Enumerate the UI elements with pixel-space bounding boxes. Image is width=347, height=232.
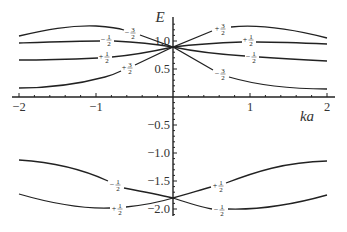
label-lower-left-minus-1-2: − 1 2 [110, 178, 121, 193]
y-tick-label: −0.5 [147, 118, 170, 132]
y-tick-label: −1.0 [147, 146, 170, 160]
svg-text:−: − [110, 180, 115, 189]
label-upper-right-minus-1-2: − 1 2 [246, 50, 257, 65]
svg-text:−: − [214, 205, 219, 214]
label-upper-right-plus-3-2: + 3 2 [215, 22, 226, 37]
y-axis: 1.0 0.5 −0.5 −1.0 −1.5 −2.0 E [147, 9, 177, 216]
label-upper-left-minus-3-2: − 3 2 [125, 26, 136, 41]
x-tick-label: 2 [324, 100, 330, 114]
curve-labels: − 3 2 − 1 2 + 1 2 + 3 2 + 3 2 [99, 22, 257, 218]
svg-text:+: + [122, 63, 127, 72]
y-tick-label: −1.5 [147, 174, 170, 188]
x-tick-label: −2 [12, 100, 25, 114]
y-tick-label: 0.5 [154, 62, 170, 76]
x-tick-label: 1 [247, 100, 253, 114]
svg-text:2: 2 [118, 209, 122, 217]
label-lower-right-minus-1-2: − 1 2 [214, 203, 225, 218]
svg-text:2: 2 [105, 57, 109, 65]
svg-text:2: 2 [220, 210, 224, 218]
svg-text:2: 2 [128, 68, 132, 76]
y-axis-title: E [154, 9, 164, 25]
svg-text:+: + [112, 204, 117, 213]
y-tick-label: −2.0 [147, 202, 170, 216]
label-upper-right-minus-3-2: − 3 2 [215, 67, 226, 82]
svg-text:+: + [243, 35, 248, 44]
svg-text:2: 2 [219, 186, 223, 194]
svg-text:+: + [213, 181, 218, 190]
svg-text:+: + [99, 52, 104, 61]
svg-text:2: 2 [249, 40, 253, 48]
svg-text:−: − [246, 52, 251, 61]
svg-text:2: 2 [131, 33, 135, 41]
svg-text:2: 2 [107, 40, 111, 48]
svg-text:−: − [125, 28, 130, 37]
x-tick-label: −1 [89, 100, 102, 114]
band-structure-chart: −2 −1 1 2 ka [0, 0, 347, 232]
label-lower-right-plus-1-2: + 1 2 [213, 179, 224, 194]
svg-text:−: − [101, 35, 106, 44]
svg-text:2: 2 [252, 57, 256, 65]
svg-text:2: 2 [221, 29, 225, 37]
label-upper-left-plus-3-2: + 3 2 [122, 61, 133, 76]
label-upper-right-plus-1-2: + 1 2 [243, 33, 254, 48]
svg-text:+: + [215, 24, 220, 33]
svg-text:−: − [215, 69, 220, 78]
label-upper-left-minus-1-2: − 1 2 [101, 33, 112, 48]
svg-text:2: 2 [221, 74, 225, 82]
label-lower-left-plus-1-2: + 1 2 [112, 202, 123, 217]
svg-text:2: 2 [116, 185, 120, 193]
label-upper-left-plus-1-2: + 1 2 [99, 50, 110, 65]
x-axis-title: ka [300, 108, 314, 124]
